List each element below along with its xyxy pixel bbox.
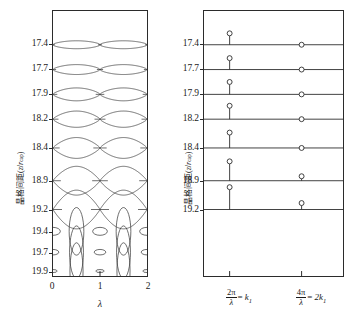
band-upper-branch [53,111,147,119]
left-y-tick-label: 17.7 [18,64,48,74]
right-y-tick-mark [200,94,204,95]
dispersion-row-17.4 [204,31,343,47]
right-y-axis-title-subscript: cap [186,154,192,162]
right-y-tick-mark [200,119,204,120]
band-edge-lens [53,270,57,273]
left-y-axis-title-var2: r [16,162,25,165]
left-y-tick-mark [49,210,53,211]
band-lower-branch [53,210,147,229]
band-lower-branch [53,181,147,195]
band-edge-lens [53,227,60,235]
fraction-denominator: λ [296,298,307,307]
data-marker-2k1 [299,174,304,179]
band-row-17.7 [53,65,147,75]
right-y-tick-mark [200,44,204,45]
band-edge-lens [141,249,147,254]
left-y-tick-mark [49,253,53,254]
band-row-18.9 [53,166,147,195]
left-y-tick-mark [49,181,53,182]
left-y-tick-label: 17.4 [18,39,48,49]
band-row-17.4 [53,41,147,49]
left-y-axis-title-suffix: ) [16,152,25,155]
band-antinode-ellipse [69,208,84,256]
right-y-axis-title-slash: / [184,165,193,167]
left-y-tick-mark [49,69,53,70]
left-y-axis-title-var: z [16,167,25,170]
fraction-4pi-over-lambda: 4π λ [296,288,307,307]
band-edge-lens [143,270,147,273]
data-marker-2k1 [299,117,304,122]
right-panel-markers [204,11,343,276]
equals-sign: = [237,292,244,302]
right-x-axis-label-k1: 2π λ =k1 [204,288,274,307]
band-edge-lens [53,249,59,254]
left-y-tick-mark [49,232,53,233]
left-y-tick-mark [49,272,53,273]
band-lower-branch [53,94,147,100]
band-node-lens [94,249,106,254]
data-marker-k1 [227,31,232,36]
data-marker-k1 [227,159,232,164]
right-y-tick-mark [200,210,204,211]
wavenumber-subscript: 1 [323,296,326,303]
left-y-tick-mark [49,44,53,45]
dispersion-row-19.2 [204,185,343,210]
left-y-tick-mark [49,148,53,149]
left-x-tick-label: 0 [40,282,64,292]
fraction-2pi-over-lambda: 2π λ [226,288,237,307]
data-marker-2k1 [299,42,304,47]
left-panel-curves [53,11,147,276]
right-plot-panel [203,10,344,277]
right-x-axis-label-2k1: 4π λ =2k1 [276,288,346,307]
left-y-tick-label: 19.2 [18,205,48,215]
data-marker-k1 [227,185,232,190]
band-upper-branch [53,166,147,180]
wavenumber-symbol-k1: k1 [244,292,252,304]
left-y-tick-label: 19.9 [18,267,48,277]
right-y-axis-title-var2: r [184,162,193,165]
band-antinode-ellipse [116,208,131,256]
two-panel-figure: 17.417.717.918.218.418.919.219.419.719.9… [0,0,356,322]
band-row-19.4 [53,208,147,256]
band-edge-lens [140,227,147,235]
right-y-tick-label: 17.9 [169,89,199,99]
band-lower-branch [53,70,147,75]
left-y-tick-label: 19.7 [18,248,48,258]
band-row-18.2 [53,111,147,127]
band-row-19.9 [53,243,147,276]
right-y-tick-label: 17.4 [169,39,199,49]
dispersion-row-17.7 [204,56,343,72]
band-upper-branch [53,65,147,70]
dispersion-row-18.9 [204,159,343,181]
left-x-axis-title: λ [52,298,148,309]
band-lower-branch [53,148,147,158]
right-y-tick-mark [200,69,204,70]
wavenumber-base: 2k [314,292,323,302]
data-marker-2k1 [299,201,304,206]
dispersion-row-17.9 [204,79,343,96]
left-y-tick-mark [49,94,53,95]
dispersion-row-18.2 [204,103,343,121]
right-y-tick-label: 17.7 [169,64,199,74]
band-row-19.7 [53,226,147,276]
data-marker-2k1 [299,145,304,150]
right-y-axis-title-var: z [184,167,193,170]
left-y-tick-label: 18.2 [18,114,48,124]
data-marker-2k1 [299,67,304,72]
equals-sign: = [306,292,313,302]
right-y-tick-label: 18.2 [169,114,199,124]
data-marker-k1 [227,103,232,108]
left-y-tick-label: 19.4 [18,227,48,237]
band-row-17.9 [53,88,147,101]
left-y-tick-mark [49,119,53,120]
band-node-lens [93,227,108,235]
right-y-tick-mark [200,148,204,149]
left-y-axis-title-subscript: cap [18,154,24,162]
right-y-tick-mark [200,181,204,182]
right-y-tick-label: 19.2 [169,205,199,215]
data-marker-k1 [227,79,232,84]
data-marker-2k1 [299,92,304,97]
left-x-tick-label: 2 [136,282,160,292]
left-y-axis-title-slash: / [16,165,25,167]
band-upper-branch [53,138,147,148]
